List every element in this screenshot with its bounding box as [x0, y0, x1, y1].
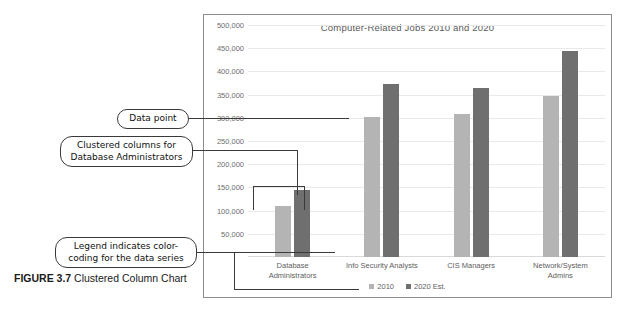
x-axis-category-label: Network/System Admins	[516, 261, 605, 281]
x-axis-category-label: Database Administrators	[248, 261, 337, 281]
bar-2020-est-[interactable]	[473, 88, 489, 257]
y-axis-tick-label: 450,000	[217, 44, 244, 53]
legend-item[interactable]: 2020 Est.	[406, 282, 446, 291]
leader-clustered-v	[297, 150, 298, 195]
y-axis-tick-label: 200,000	[217, 160, 244, 169]
y-axis-tick-label: 50,000	[221, 229, 244, 238]
legend-swatch-icon	[369, 284, 374, 289]
y-axis-tick-label: 250,000	[217, 137, 244, 146]
y-axis-tick-label: 500,000	[217, 21, 244, 30]
chart-container: Computer-Related Jobs 2010 and 2020 50,0…	[203, 14, 612, 298]
bar-2020-est-[interactable]	[294, 190, 310, 257]
bar-2010[interactable]	[543, 96, 559, 257]
leader-legend-h2	[234, 289, 359, 290]
leader-clustered-bracket-left	[253, 186, 254, 210]
bar-cluster	[516, 25, 605, 257]
legend-item[interactable]: 2010	[369, 282, 394, 291]
bar-cluster	[337, 25, 426, 257]
bar-2010[interactable]	[275, 206, 291, 257]
bar-cluster	[427, 25, 516, 257]
x-axis-category-label: CIS Managers	[427, 261, 516, 271]
y-axis-labels: 50,000100,000150,000200,000250,000300,00…	[206, 25, 248, 257]
x-axis-category-label: Info Security Analysts	[337, 261, 426, 271]
leader-data-point	[169, 118, 349, 119]
leader-clustered-h	[188, 150, 298, 151]
bar-cluster	[248, 25, 337, 257]
legend-label: 2010	[377, 282, 394, 291]
bar-2020-est-[interactable]	[562, 51, 578, 257]
y-axis-tick-label: 100,000	[217, 206, 244, 215]
plot-area: Database AdministratorsInfo Security Ana…	[248, 25, 605, 257]
leader-legend-v	[234, 252, 235, 290]
callout-data-point: Data point	[117, 109, 189, 129]
figure-label: FIGURE 3.7	[14, 272, 71, 284]
bar-2020-est-[interactable]	[383, 84, 399, 257]
bar-2010[interactable]	[454, 114, 470, 257]
figure-caption: FIGURE 3.7 Clustered Column Chart	[14, 272, 199, 286]
legend-swatch-icon	[406, 284, 411, 289]
callout-clustered-columns: Clustered columns for Database Administr…	[60, 136, 193, 167]
y-axis-tick-label: 350,000	[217, 90, 244, 99]
leader-clustered-bracket-right	[304, 186, 305, 210]
legend-label: 2020 Est.	[414, 282, 446, 291]
y-axis-tick-label: 150,000	[217, 183, 244, 192]
callout-legend-note: Legend indicates color- coding for the d…	[55, 237, 197, 268]
bar-2010[interactable]	[364, 117, 380, 257]
leader-legend-h	[195, 252, 335, 253]
figure-caption-text: Clustered Column Chart	[74, 272, 187, 284]
leader-clustered-bracket-top	[253, 186, 305, 187]
y-axis-tick-label: 400,000	[217, 67, 244, 76]
